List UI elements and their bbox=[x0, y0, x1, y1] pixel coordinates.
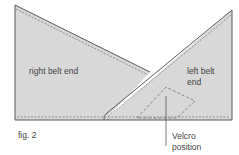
figure-caption: fig. 2 bbox=[18, 130, 36, 140]
left-belt-end-label-line2: end bbox=[187, 77, 201, 87]
velcro-position-label-line2: position bbox=[172, 142, 201, 152]
left-belt-end-label-line1: left belt bbox=[187, 66, 214, 76]
right-belt-end-label: right belt end bbox=[29, 66, 78, 76]
velcro-position-label-line1: Velcro bbox=[172, 131, 196, 141]
